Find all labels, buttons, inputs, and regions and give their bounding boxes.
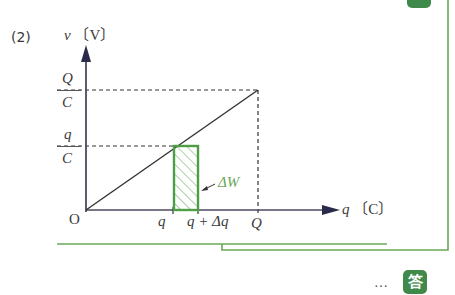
- tick-qC-den: C: [62, 151, 72, 166]
- tick-QC-num: Q: [62, 71, 73, 86]
- tick-Q: Q: [251, 216, 262, 231]
- tick-q-plus-dq: q + Δq: [187, 214, 228, 229]
- fraction-bar: [57, 90, 81, 91]
- tick-q: q: [158, 214, 166, 229]
- diagram-graphics: [0, 0, 455, 295]
- problem-number: (2): [11, 30, 31, 44]
- x-axis-label: q 〔C〕: [342, 202, 393, 217]
- delta-w-rectangle: [174, 146, 198, 210]
- answer-badge: 答: [403, 270, 427, 294]
- y-axis-var: v: [64, 27, 71, 43]
- y-axis-label: v 〔V〕: [64, 28, 115, 43]
- y-axis-arrow-icon: [81, 45, 91, 62]
- answer-ellipsis: …: [374, 276, 388, 290]
- answer-badge-top: [407, 0, 431, 8]
- v-q-line: [86, 90, 258, 210]
- delta-w-label: ΔW: [218, 175, 239, 190]
- tick-qC-num: q: [64, 127, 72, 142]
- y-axis-unit: 〔V〕: [74, 27, 115, 43]
- x-axis-unit: 〔C〕: [353, 201, 393, 217]
- origin-label: O: [69, 212, 80, 227]
- x-axis-arrow-icon: [322, 205, 340, 215]
- tick-QC-den: C: [62, 95, 72, 110]
- x-axis-var: q: [342, 201, 350, 217]
- fraction-bar: [57, 146, 81, 147]
